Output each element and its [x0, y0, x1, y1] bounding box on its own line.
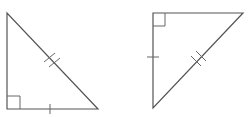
triangle-left-outline — [7, 13, 98, 109]
triangle-left — [7, 13, 98, 114]
congruent-triangles-diagram — [0, 0, 249, 117]
double-tick-mark — [191, 51, 206, 66]
triangle-right — [147, 13, 243, 108]
right-angle-marker — [7, 96, 20, 109]
triangle-right-outline — [153, 13, 243, 108]
right-angle-marker — [153, 13, 165, 26]
